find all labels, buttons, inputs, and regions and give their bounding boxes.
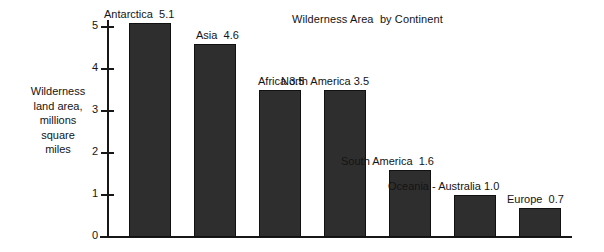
bar-europe <box>519 208 561 237</box>
bar-label-south-america: South America 1.6 <box>341 155 434 167</box>
bar-label-asia: Asia 4.6 <box>196 29 239 41</box>
bar-label-oceania-australia: Oceania - Australia 1.0 <box>388 180 499 192</box>
y-tick-2 <box>101 152 114 154</box>
bar-label-north-america: North America 3.5 <box>281 75 369 87</box>
y-tick-4 <box>101 68 114 70</box>
bar-africa <box>259 90 301 237</box>
y-tick-label-1: 1 <box>82 187 98 199</box>
bar-antarctica <box>129 23 171 237</box>
y-tick-5 <box>101 26 114 28</box>
y-tick-0 <box>101 236 114 238</box>
y-tick-1 <box>101 194 114 196</box>
bar-oceania-australia <box>454 195 496 237</box>
bar-label-europe: Europe 0.7 <box>507 193 564 205</box>
y-tick-label-3: 3 <box>82 103 98 115</box>
bar-asia <box>194 44 236 237</box>
y-tick-3 <box>101 110 114 112</box>
y-tick-label-0: 0 <box>82 229 98 241</box>
y-axis-line <box>107 20 109 238</box>
chart-screenshot: Wilderness Area by Continent Wilderness … <box>0 0 604 252</box>
plot-area: 012345 Antarctica 5.1Asia 4.6Africa 3.5N… <box>0 0 604 252</box>
y-tick-label-5: 5 <box>82 19 98 31</box>
y-tick-label-4: 4 <box>82 61 98 73</box>
y-tick-label-2: 2 <box>82 145 98 157</box>
bar-label-antarctica: Antarctica 5.1 <box>104 8 174 20</box>
